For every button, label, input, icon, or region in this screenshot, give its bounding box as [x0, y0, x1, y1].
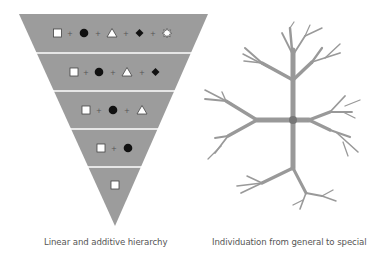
square-icon	[70, 68, 78, 76]
diagram-canvas: + + + + + + + + + +	[0, 0, 390, 259]
svg-text:+: +	[95, 30, 101, 38]
svg-text:+: +	[111, 145, 117, 153]
svg-text:+: +	[150, 30, 156, 38]
square-icon	[82, 106, 90, 114]
square-icon	[97, 144, 105, 152]
star-icon	[162, 28, 172, 37]
square-icon	[54, 29, 62, 37]
tree-root-node	[289, 116, 297, 124]
hierarchy-triangle	[0, 14, 230, 226]
svg-text:+: +	[110, 69, 116, 77]
level-1-symbols: + + + +	[54, 28, 172, 38]
svg-text:+: +	[139, 69, 145, 77]
level-5-symbols	[111, 181, 119, 189]
svg-text:+: +	[123, 30, 129, 38]
square-icon	[111, 181, 119, 189]
svg-text:+: +	[96, 107, 102, 115]
circle-icon	[95, 68, 104, 77]
individuation-tree	[205, 22, 360, 209]
level-4-symbols: +	[97, 144, 132, 153]
right-diagram-caption: Individuation from general to special	[212, 237, 366, 247]
circle-icon	[80, 29, 89, 38]
left-diagram-caption: Linear and additive hierarchy	[44, 237, 167, 247]
svg-text:+: +	[83, 69, 89, 77]
circle-icon	[124, 144, 133, 153]
svg-text:+: +	[124, 107, 130, 115]
circle-icon	[109, 106, 118, 115]
svg-text:+: +	[67, 30, 73, 38]
